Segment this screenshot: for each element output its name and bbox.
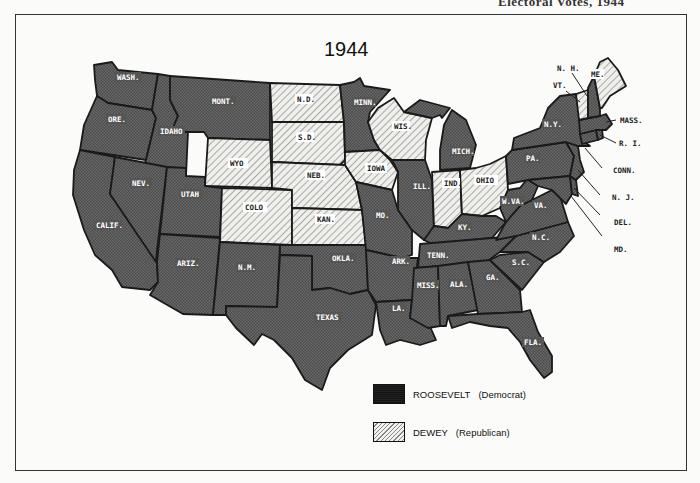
svg-text:COLO: COLO xyxy=(245,203,264,212)
legend-roosevelt-candidate: ROOSEVELT xyxy=(413,389,470,400)
svg-text:WIS.: WIS. xyxy=(394,122,412,131)
svg-text:S.D.: S.D. xyxy=(298,133,316,142)
legend-roosevelt-party: (Democrat) xyxy=(478,389,526,400)
svg-text:MINN.: MINN. xyxy=(354,98,377,107)
us-electoral-map: WASH. ORE. CALIF. IDAHO NEV. MONT. UTAH … xyxy=(0,0,700,483)
state-nm xyxy=(213,242,280,315)
legend-dewey-candidate: DEWEY xyxy=(413,427,448,438)
svg-text:FLA.: FLA. xyxy=(524,338,542,347)
svg-text:S.C.: S.C. xyxy=(512,258,530,267)
svg-text:N.M.: N.M. xyxy=(238,263,256,272)
svg-text:MONT.: MONT. xyxy=(212,97,235,106)
svg-text:N.D.: N.D. xyxy=(297,95,315,104)
svg-text:N.C.: N.C. xyxy=(532,233,550,242)
state-kan xyxy=(292,208,366,245)
svg-text:W.VA.: W.VA. xyxy=(502,197,525,206)
svg-text:OHIO: OHIO xyxy=(476,176,495,185)
svg-text:IND.: IND. xyxy=(444,179,462,188)
svg-text:VT.: VT. xyxy=(553,81,567,90)
svg-text:GA.: GA. xyxy=(486,273,500,282)
svg-text:N.Y.: N.Y. xyxy=(544,120,562,129)
svg-text:VA.: VA. xyxy=(534,201,548,210)
svg-text:TENN.: TENN. xyxy=(427,251,450,260)
svg-text:MD.: MD. xyxy=(614,245,628,254)
svg-text:WYO: WYO xyxy=(230,159,244,168)
state-me xyxy=(594,58,626,108)
svg-text:PA.: PA. xyxy=(526,154,540,163)
svg-text:TEXAS: TEXAS xyxy=(316,313,339,322)
svg-text:NEB.: NEB. xyxy=(307,171,325,180)
svg-text:IOWA: IOWA xyxy=(367,164,386,173)
svg-text:DEL.: DEL. xyxy=(614,218,632,227)
svg-text:MISS.: MISS. xyxy=(417,281,440,290)
svg-text:KY.: KY. xyxy=(458,223,472,232)
svg-text:N. J.: N. J. xyxy=(612,193,635,202)
svg-text:OKLA.: OKLA. xyxy=(332,254,355,263)
svg-text:MICH.: MICH. xyxy=(452,147,475,156)
svg-text:ALA.: ALA. xyxy=(450,280,468,289)
state-miss xyxy=(410,266,440,328)
svg-text:ARIZ.: ARIZ. xyxy=(177,259,200,268)
svg-text:UTAH: UTAH xyxy=(181,190,200,199)
svg-text:R. I.: R. I. xyxy=(619,139,642,148)
svg-text:KAN.: KAN. xyxy=(317,215,335,224)
legend-dewey: DEWEY (Republican) xyxy=(373,422,510,442)
legend-roosevelt: ROOSEVELT (Democrat) xyxy=(373,384,526,404)
legend-dewey-party: (Republican) xyxy=(456,427,510,438)
state-ariz xyxy=(150,234,220,315)
svg-text:CALIF.: CALIF. xyxy=(96,221,123,230)
dewey-swatch xyxy=(373,422,405,442)
svg-text:WASH.: WASH. xyxy=(117,73,140,82)
svg-text:N. H.: N. H. xyxy=(557,64,580,73)
svg-text:CONN.: CONN. xyxy=(613,166,636,175)
svg-text:MASS.: MASS. xyxy=(620,116,643,125)
state-colo xyxy=(220,188,292,245)
svg-text:ARK.: ARK. xyxy=(392,257,410,266)
svg-text:MO.: MO. xyxy=(376,211,390,220)
svg-text:ORE.: ORE. xyxy=(108,115,126,124)
svg-text:ILL.: ILL. xyxy=(413,182,431,191)
svg-text:NEV.: NEV. xyxy=(132,179,150,188)
svg-text:IDAHO: IDAHO xyxy=(160,127,183,136)
state-sd xyxy=(272,122,345,165)
svg-text:LA.: LA. xyxy=(392,304,406,313)
svg-text:ME.: ME. xyxy=(591,70,605,79)
roosevelt-swatch xyxy=(373,384,405,404)
